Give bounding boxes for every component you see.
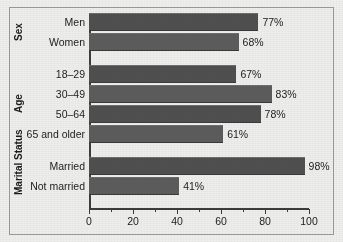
bar <box>89 13 258 31</box>
bar-value-label: 83% <box>276 89 297 100</box>
chart-figure: MenWomen18–2930–4950–6465 and olderMarri… <box>0 0 343 242</box>
bar-value-label: 67% <box>240 69 261 80</box>
bar <box>89 177 179 195</box>
bar <box>89 85 272 103</box>
x-tick-major <box>133 209 134 214</box>
x-tick-major <box>177 209 178 214</box>
x-tick-minor <box>111 209 112 212</box>
x-tick-label: 0 <box>86 216 92 227</box>
x-tick-label: 60 <box>215 216 227 227</box>
x-tick-label: 40 <box>171 216 183 227</box>
bar <box>89 105 261 123</box>
x-tick-major <box>309 209 310 214</box>
x-tick-label: 20 <box>127 216 139 227</box>
bar <box>89 157 305 175</box>
x-tick-major <box>221 209 222 214</box>
x-tick-major <box>89 209 90 214</box>
x-tick-label: 80 <box>259 216 271 227</box>
x-tick-minor <box>155 209 156 212</box>
group-label: Sex <box>14 13 24 51</box>
bar-value-label: 98% <box>309 161 330 172</box>
bar <box>89 125 223 143</box>
bar <box>89 65 236 83</box>
category-label: 18–29 <box>0 69 85 80</box>
bar-value-label: 78% <box>265 109 286 120</box>
x-tick-major <box>265 209 266 214</box>
bar <box>89 33 239 51</box>
bar-value-label: 61% <box>227 129 248 140</box>
x-tick-minor <box>287 209 288 212</box>
plot-area: 77%68%67%83%78%61%98%41% <box>89 13 334 209</box>
x-tick-minor <box>199 209 200 212</box>
bar-value-label: 41% <box>183 181 204 192</box>
x-tick-minor <box>243 209 244 212</box>
bar-value-label: 77% <box>262 17 283 28</box>
bar-value-label: 68% <box>243 37 264 48</box>
x-tick-label: 100 <box>300 216 318 227</box>
group-label: Marital Status <box>14 157 24 195</box>
